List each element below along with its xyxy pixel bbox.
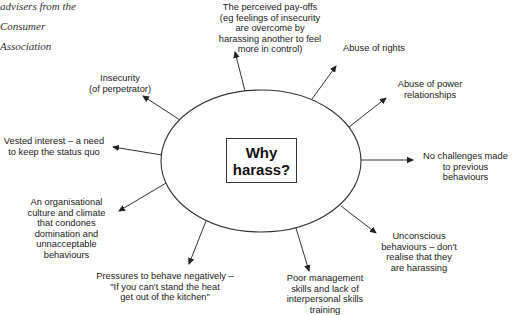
cause-pressures: Pressures to behave negatively – "If you… [90, 271, 240, 303]
arrow-poor-management [296, 228, 309, 271]
cause-culture: An organisational culture and climate th… [24, 197, 109, 260]
cause-abuse-of-power: Abuse of power relationships [380, 79, 480, 100]
why-harass-box: Why harass? [226, 138, 297, 183]
arrow-payoffs [235, 52, 245, 91]
arrow-unconscious [341, 206, 376, 233]
arrow-abuse-rights [312, 66, 336, 99]
arrow-pressures [189, 221, 206, 264]
cause-payoffs: The perceived pay-offs (eg feelings of i… [200, 2, 340, 55]
cause-abuse-of-rights: Abuse of rights [329, 43, 419, 54]
cause-no-challenges: No challenges made to previous behaviour… [418, 151, 513, 183]
cause-insecurity: Insecurity (of perpetrator) [85, 73, 155, 94]
arrow-abuse-power [349, 98, 386, 127]
cause-unconscious: Unconscious behaviours – don't realise t… [374, 231, 464, 273]
arrow-insecurity [143, 96, 180, 120]
cause-vested-interest: Vested interest – a need to keep the sta… [0, 136, 108, 157]
cause-poor-management: Poor management skills and lack of inter… [275, 273, 375, 315]
arrow-culture [119, 183, 166, 211]
arrow-vested-interest [113, 147, 162, 155]
